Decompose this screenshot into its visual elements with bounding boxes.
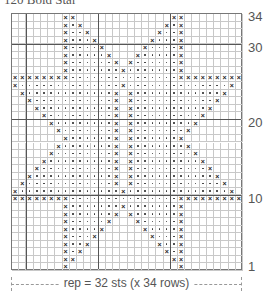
chart-cell-r32-c6 [48,29,55,37]
chart-cell-r3-c31 [229,248,236,256]
chart-cell-r17-c26 [192,143,199,151]
chart-cell-r1-c4 [34,263,41,271]
chart-cell-r1-c19 [142,263,149,271]
chart-cell-r13-c26 [192,173,199,181]
chart-cell-r19-c28 [207,127,214,135]
chart-cell-r15-c9 [70,158,77,166]
chart-cell-r20-c29 [214,120,221,128]
chart-cell-r14-c5 [41,165,48,173]
chart-cell-r10-c17 [128,195,135,203]
chart-cell-r10-c9 [70,195,77,203]
chart-cell-r28-c11 [84,59,91,67]
chart-cell-r22-c32 [236,105,243,113]
chart-cell-r24-c13 [99,90,106,98]
chart-cell-r5-c18 [135,233,142,241]
chart-cell-r25-c19 [142,82,149,90]
chart-cell-r26-c32: × [236,74,243,82]
chart-cell-r10-c30: × [221,195,228,203]
chart-cell-r3-c6 [48,248,55,256]
chart-cell-r28-c4 [34,59,41,67]
chart-cell-r6-c27 [200,226,207,234]
chart-cell-r29-c13 [99,52,106,60]
chart-cell-r18-c4 [34,135,41,143]
chart-cell-r33-c1 [12,22,19,30]
chart-cell-r20-c26: × [192,120,199,128]
row-label-20: 20 [248,116,262,129]
chart-cell-r6-c29 [214,226,221,234]
chart-cell-r7-c7 [55,218,62,226]
chart-cell-r17-c10 [77,143,84,151]
chart-cell-r17-c14 [106,143,113,151]
chart-cell-r28-c29 [214,59,221,67]
chart-cell-r32-c1 [12,29,19,37]
chart-cell-r14-c13 [99,165,106,173]
chart-cell-r27-c15 [113,67,120,75]
chart-cell-r9-c31 [229,203,236,211]
chart-cell-r34-c17 [128,14,135,22]
chart-cell-r23-c16 [120,97,127,105]
chart-cell-r33-c4 [34,22,41,30]
chart-cell-r8-c1 [12,211,19,219]
chart-cell-r7-c28 [207,218,214,226]
chart-cell-r18-c7 [55,135,62,143]
chart-cell-r34-c8: × [63,14,70,22]
chart-cell-r1-c18 [135,263,142,271]
chart-cell-r8-c7 [55,211,62,219]
chart-cell-r34-c23: × [171,14,178,22]
chart-cell-r1-c14 [106,263,113,271]
chart-cell-r15-c26 [192,158,199,166]
chart-cell-r20-c10 [77,120,84,128]
chart-cell-r8-c27 [200,211,207,219]
chart-cell-r8-c15: × [113,211,120,219]
chart-cell-r15-c31 [229,158,236,166]
chart-cell-r29-c5 [41,52,48,60]
chart-cell-r5-c14 [106,233,113,241]
thick-column-divider [98,14,99,269]
chart-cell-r6-c14 [106,226,113,234]
chart-cell-r15-c19 [142,158,149,166]
chart-cell-r10-c20 [149,195,156,203]
chart-cell-r24-c4 [34,90,41,98]
chart-cell-r15-c4 [34,158,41,166]
chart-cell-r20-c30 [221,120,228,128]
chart-cell-r29-c16 [120,52,127,60]
chart-cell-r29-c7 [55,52,62,60]
chart-cell-r20-c9 [70,120,77,128]
chart-cell-r9-c25 [185,203,192,211]
chart-cell-r2-c31 [229,256,236,264]
chart-cell-r26-c6: × [48,74,55,82]
chart-cell-r15-c14 [106,158,113,166]
chart-cell-r34-c21 [156,14,163,22]
chart-cell-r10-c7: × [55,195,62,203]
chart-cell-r26-c3: × [26,74,33,82]
chart-cell-r15-c5: × [41,158,48,166]
chart-cell-r6-c17 [128,226,135,234]
chart-cell-r15-c6 [48,158,55,166]
chart-cell-r5-c4 [34,233,41,241]
chart-cell-r1-c21 [156,263,163,271]
chart-cell-r28-c7 [55,59,62,67]
chart-cell-r15-c1 [12,158,19,166]
chart-cell-r25-c13 [99,82,106,90]
chart-cell-r26-c25: × [185,74,192,82]
chart-cell-r7-c4 [34,218,41,226]
chart-cell-r10-c25: × [185,195,192,203]
chart-cell-r18-c17: × [128,135,135,143]
chart-cell-r19-c7: × [55,127,62,135]
chart-cell-r23-c28 [207,97,214,105]
chart-cell-r25-c26 [192,82,199,90]
chart-cell-r10-c3: × [26,195,33,203]
chart-cell-r20-c14 [106,120,113,128]
chart-cell-r26-c19 [142,74,149,82]
chart-cell-r9-c7 [55,203,62,211]
chart-cell-r1-c17 [128,263,135,271]
chart-cell-r14-c15: × [113,165,120,173]
chart-cell-r24-c3 [26,90,33,98]
chart-cell-r33-c30 [221,22,228,30]
chart-cell-r16-c25 [185,150,192,158]
chart-cell-r8-c30 [221,211,228,219]
chart-cell-r32-c10 [77,29,84,37]
chart-cell-r9-c3 [26,203,33,211]
chart-cell-r17-c13 [99,143,106,151]
chart-cell-r23-c1 [12,97,19,105]
